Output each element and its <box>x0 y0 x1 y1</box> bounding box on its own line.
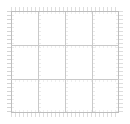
grid-cell[interactable] <box>12 46 38 79</box>
grid-cell[interactable] <box>39 46 65 79</box>
grid-cell[interactable] <box>39 12 65 45</box>
gridline-horizontal-3 <box>11 112 119 113</box>
grid-cell[interactable] <box>12 80 38 112</box>
grid-cell[interactable] <box>39 80 65 112</box>
plot-grid-panel <box>11 11 119 113</box>
grid-cell[interactable] <box>12 12 38 45</box>
bottom-axis-minor-ticks <box>11 113 119 117</box>
right-axis-minor-ticks <box>119 11 123 113</box>
grid-cell[interactable] <box>66 80 92 112</box>
grid-cell[interactable] <box>93 80 118 112</box>
grid-cell[interactable] <box>93 46 118 79</box>
grid-cell[interactable] <box>66 12 92 45</box>
grid-cell[interactable] <box>66 46 92 79</box>
figure-canvas <box>0 0 130 124</box>
gridline-vertical-4 <box>118 11 119 113</box>
grid-cell[interactable] <box>93 12 118 45</box>
